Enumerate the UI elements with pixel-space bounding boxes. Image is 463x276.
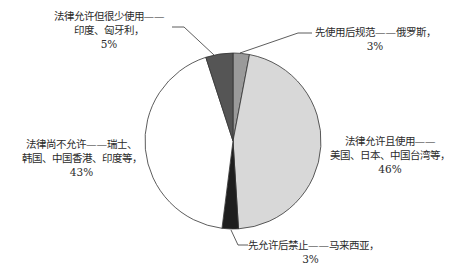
label-percent: 5% [44,37,174,51]
slice-allowed-used [233,55,321,229]
pie-chart: 法律允许但很少使用—— 印度、匈牙利， 5% 先使用后规范——俄罗斯， 3% 法… [0,0,463,276]
slice-label-not-allowed: 法律尚不允许——瑞士、 韩国、中国香港、印度等， 43% [14,137,149,179]
label-line-1: 法律尚不允许——瑞士、 [14,137,149,151]
label-line-1: 法律允许且使用—— [326,134,454,148]
label-percent: 46% [326,162,454,176]
label-percent: 3% [248,252,373,266]
leader-line-malaysia [231,230,248,245]
label-line-1: 先使用后规范——俄罗斯， [315,25,435,39]
slice-label-use-then-regulate: 先使用后规范——俄罗斯， 3% [315,25,435,53]
label-line-1: 先允许后禁止——马来西亚， [248,238,373,252]
label-line-2: 印度、匈牙利， [44,23,174,37]
leader-line-hungary [172,27,214,55]
label-percent: 3% [315,39,435,53]
pie-slices [145,53,321,229]
slice-label-restricted-use: 法律允许但很少使用—— 印度、匈牙利， 5% [44,9,174,51]
label-line-1: 法律允许但很少使用—— [44,9,174,23]
slice-label-allowed-then-banned: 先允许后禁止——马来西亚， 3% [248,238,373,266]
label-line-2: 美国、日本、中国台湾等， [326,148,454,162]
leader-line-russia [240,33,312,53]
slice-label-allowed-and-used: 法律允许且使用—— 美国、日本、中国台湾等， 46% [326,134,454,176]
label-percent: 43% [14,165,149,179]
label-line-2: 韩国、中国香港、印度等， [14,151,149,165]
